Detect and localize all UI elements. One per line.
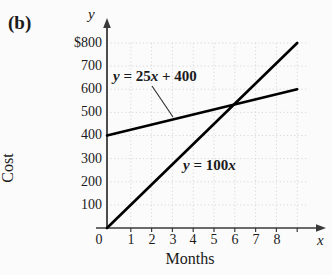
series-label-100x: y = 100x: [183, 157, 236, 174]
series-label-25x-400: y = 25x + 400: [113, 68, 197, 85]
series-label-lhs: y: [183, 157, 190, 173]
series-line-25x-400: [107, 89, 297, 135]
x-tick-label: 5: [205, 232, 223, 248]
series-label-eq: = 100: [190, 157, 229, 173]
x-tick-label: 3: [164, 232, 182, 248]
x-tick-label: 2: [143, 232, 161, 248]
series-label-eq: = 25: [120, 68, 151, 84]
y-tick-label: $800: [42, 36, 102, 50]
x-tick-label: 6: [226, 232, 244, 248]
y-axis: [103, 18, 111, 228]
x-axis-symbol: x: [317, 232, 324, 249]
series-label-lhs: y: [113, 68, 120, 84]
x-tick-label: 0: [90, 232, 108, 248]
x-tick-label: 8: [268, 232, 286, 248]
series-label-rhs: + 400: [158, 68, 197, 84]
x-tick-label: 7: [247, 232, 265, 248]
x-tick-label: 1: [122, 232, 140, 248]
y-tick-label: 200: [42, 175, 102, 189]
y-tick-label: 500: [42, 105, 102, 119]
x-tick-label: 4: [184, 232, 202, 248]
y-axis-title: Cost: [0, 118, 17, 218]
x-axis-title: Months: [130, 250, 250, 268]
leader-line-icon: [152, 86, 173, 117]
figure-panel-b: (b): [0, 0, 332, 275]
y-tick-label: 700: [42, 59, 102, 73]
y-tick-label: 400: [42, 128, 102, 142]
y-tick-label: 100: [42, 198, 102, 212]
y-tick-label: 600: [42, 82, 102, 96]
series-label-var: x: [228, 157, 236, 173]
y-tick-label: 300: [42, 152, 102, 166]
